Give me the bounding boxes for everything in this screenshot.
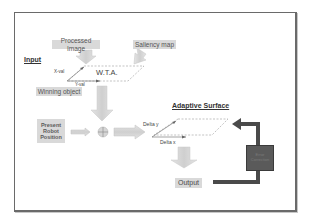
x-val-label: X-val <box>54 69 64 74</box>
adaptive-surface-heading: Adaptive Surface <box>172 102 229 109</box>
saliency-map-node: Saliency map <box>133 40 176 49</box>
processed-image-label: Processed Image <box>52 37 100 51</box>
processed-image-node: Processed Image <box>52 40 100 49</box>
feedback-block-label: Error Correction <box>249 153 271 163</box>
present-robot-position-node: Present Robot Position <box>37 119 65 143</box>
output-node: Output <box>175 178 202 188</box>
saliency-map-label: Saliency map <box>135 41 174 48</box>
input-heading: Input <box>24 56 41 63</box>
wta-label: W.T.A. <box>96 68 118 77</box>
arrow-saliency-to-wta <box>134 48 146 64</box>
delta-y-label: Delta y <box>143 121 159 127</box>
winning-object-node: Winning object <box>36 87 82 96</box>
winning-object-label: Winning object <box>38 88 81 95</box>
diagram-connectors <box>0 0 309 222</box>
feedback-block: Error Correction <box>246 145 274 171</box>
delta-x-label: Delta x <box>160 139 176 145</box>
output-label: Output <box>178 179 199 187</box>
arrow-sum-to-surface <box>114 125 145 139</box>
arrow-processed-to-wta <box>76 50 96 64</box>
arrow-wta-to-sum <box>91 86 113 121</box>
arrow-robot-to-sum <box>71 128 90 136</box>
present-robot-position-label: Present Robot Position <box>39 122 63 140</box>
summing-junction-icon <box>98 127 108 137</box>
adaptive-surface-plane <box>154 119 228 135</box>
arrow-surface-to-output <box>171 147 197 168</box>
